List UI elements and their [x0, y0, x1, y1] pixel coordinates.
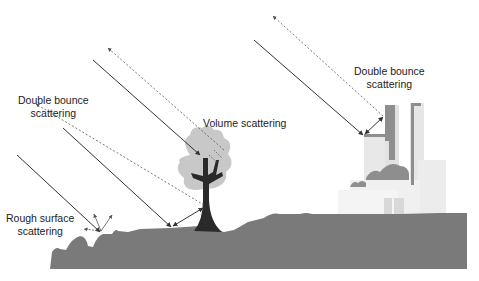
label-rough-surface: Rough surface scattering: [6, 212, 74, 238]
bounce-arrow-building: [365, 117, 383, 134]
label-double-bounce-left: Double bounce scattering: [18, 94, 89, 120]
bounce-arrow-tree: [173, 208, 203, 226]
label-double-bounce-right: Double bounce scattering: [354, 65, 425, 91]
label-volume-scattering: Volume scattering: [203, 117, 286, 130]
incident-arrow-volume: [93, 60, 200, 155]
scattering-diagram: [0, 0, 479, 281]
building: [338, 103, 446, 216]
ground: [50, 213, 467, 269]
scatter-arrow: [94, 214, 101, 231]
scatter-arrow: [101, 215, 112, 231]
